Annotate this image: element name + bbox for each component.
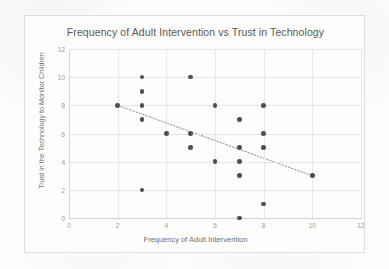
scatter-point[interactable] <box>115 103 120 108</box>
scatter-point[interactable] <box>140 89 145 94</box>
chart-page: Frequency of Adult Intervention vs Trust… <box>0 0 389 269</box>
y-tick-label: 6 <box>61 130 65 137</box>
x-tick-label: 0 <box>67 222 71 229</box>
plot-area: 024681012024681012 <box>69 49 361 218</box>
x-axis-title: Frequency of Adult Intervention <box>25 235 366 244</box>
plot-right-border <box>361 49 362 218</box>
scatter-point[interactable] <box>310 173 315 178</box>
scatter-point[interactable] <box>261 131 266 136</box>
scatter-point[interactable] <box>261 103 266 108</box>
y-tick-label: 10 <box>58 74 65 81</box>
scatter-point[interactable] <box>140 103 145 108</box>
scatter-point[interactable] <box>188 145 193 150</box>
x-tick-label: 4 <box>165 222 169 229</box>
scatter-point[interactable] <box>213 103 218 108</box>
scatter-point[interactable] <box>237 173 242 178</box>
scatter-point[interactable] <box>188 131 193 136</box>
scatter-point[interactable] <box>237 159 242 164</box>
scatter-point[interactable] <box>237 117 242 122</box>
x-axis-line <box>69 218 362 219</box>
y-tick-label: 4 <box>61 158 65 165</box>
scatter-point[interactable] <box>237 216 242 221</box>
gridline-vertical <box>215 49 216 218</box>
x-tick-label: 10 <box>309 222 316 229</box>
scatter-point[interactable] <box>140 117 145 122</box>
gridline-vertical <box>118 49 119 218</box>
scatter-point[interactable] <box>261 202 266 207</box>
scatter-point[interactable] <box>261 145 266 150</box>
gridline-vertical <box>312 49 313 218</box>
scatter-point[interactable] <box>164 131 169 136</box>
y-tick-label: 2 <box>61 186 65 193</box>
x-tick-label: 6 <box>213 222 217 229</box>
y-tick-label: 8 <box>61 102 65 109</box>
x-tick-label: 2 <box>116 222 120 229</box>
y-axis-title: Trust in the Technology to Monitor Child… <box>37 41 46 201</box>
chart-frame: Frequency of Adult Intervention vs Trust… <box>24 15 365 253</box>
chart-title: Frequency of Adult Intervention vs Trust… <box>25 26 366 38</box>
y-tick-label: 0 <box>61 215 65 222</box>
scatter-point[interactable] <box>237 145 242 150</box>
x-tick-label: 12 <box>357 222 364 229</box>
x-tick-label: 8 <box>262 222 266 229</box>
y-tick-label: 12 <box>58 46 65 53</box>
